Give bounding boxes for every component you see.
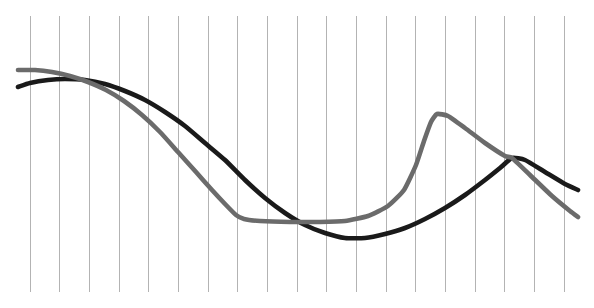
line-chart <box>0 0 594 308</box>
chart-canvas <box>0 0 594 308</box>
